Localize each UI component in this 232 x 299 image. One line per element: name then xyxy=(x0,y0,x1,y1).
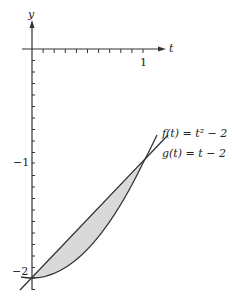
chart-canvas: y t 1 −1 −2 f(t) = t² − 2 g(t) = t − 2 xyxy=(0,0,232,299)
x-axis-arrow-icon xyxy=(158,47,166,52)
y-tick-label-neg1: −1 xyxy=(13,156,29,169)
f-curve-label: f(t) = t² − 2 xyxy=(161,127,227,140)
g-line xyxy=(20,135,168,290)
y-axis-arrow-icon xyxy=(30,20,35,28)
x-tick-label-1: 1 xyxy=(140,56,147,69)
y-axis-label: y xyxy=(27,8,35,21)
x-axis-label: t xyxy=(169,42,174,55)
f-curve xyxy=(21,135,157,278)
g-line-label: g(t) = t − 2 xyxy=(162,147,226,160)
y-tick-label-neg2: −2 xyxy=(12,265,28,278)
